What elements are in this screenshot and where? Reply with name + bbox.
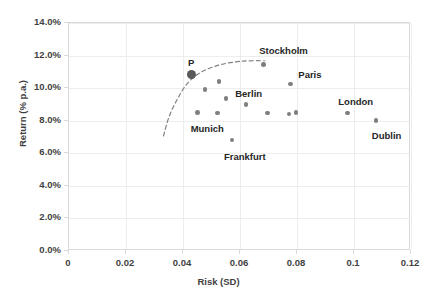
y-gridline <box>69 56 409 57</box>
x-tick-label: 0.02 <box>95 258 155 268</box>
y-tick-mark <box>64 185 68 186</box>
data-point[interactable] <box>195 110 200 115</box>
x-gridline <box>240 23 241 249</box>
data-point[interactable] <box>374 118 379 123</box>
data-point-label: Dublin <box>372 131 402 141</box>
y-tick-mark <box>64 120 68 121</box>
data-point[interactable] <box>288 82 293 87</box>
y-tick-mark <box>64 250 68 251</box>
y-gridline <box>69 23 409 24</box>
y-tick-label: 14.0% <box>0 17 61 27</box>
plot-area <box>68 22 410 250</box>
x-tick-mark <box>239 250 240 254</box>
x-tick-mark <box>182 250 183 254</box>
data-point[interactable] <box>244 102 249 107</box>
y-tick-label: 0.0% <box>0 245 61 255</box>
x-tick-mark <box>296 250 297 254</box>
x-tick-mark <box>353 250 354 254</box>
x-axis-title: Risk (SD) <box>0 276 437 287</box>
x-tick-label: 0.04 <box>152 258 212 268</box>
data-point[interactable] <box>261 62 266 67</box>
x-tick-mark <box>125 250 126 254</box>
x-tick-mark <box>410 250 411 254</box>
data-point-label: P <box>188 58 194 68</box>
data-point[interactable] <box>294 110 299 115</box>
x-gridline <box>354 23 355 249</box>
x-tick-label: 0.1 <box>323 258 383 268</box>
x-gridline <box>126 23 127 249</box>
y-tick-label: 6.0% <box>0 147 61 157</box>
y-tick-mark <box>64 217 68 218</box>
data-point[interactable] <box>203 87 208 92</box>
y-gridline <box>69 121 409 122</box>
data-point-label: Stockholm <box>259 46 308 56</box>
y-tick-mark <box>64 22 68 23</box>
y-gridline <box>69 218 409 219</box>
x-tick-label: 0.08 <box>266 258 326 268</box>
x-gridline <box>183 23 184 249</box>
y-tick-label: 12.0% <box>0 50 61 60</box>
y-gridline <box>69 186 409 187</box>
data-point-label: Berlin <box>235 89 262 99</box>
x-gridline <box>297 23 298 249</box>
y-tick-label: 8.0% <box>0 115 61 125</box>
y-tick-mark <box>64 152 68 153</box>
scatter-chart: Return (% p.a.) Risk (SD) 00.020.040.060… <box>0 0 437 296</box>
x-tick-label: 0.06 <box>209 258 269 268</box>
y-tick-mark <box>64 87 68 88</box>
data-point-label: Paris <box>298 70 321 80</box>
y-tick-mark <box>64 55 68 56</box>
y-tick-label: 2.0% <box>0 212 61 222</box>
x-gridline <box>411 23 412 249</box>
x-tick-mark <box>68 250 69 254</box>
data-point[interactable] <box>217 79 222 84</box>
x-tick-label: 0 <box>38 258 98 268</box>
y-tick-label: 10.0% <box>0 82 61 92</box>
x-tick-label: 0.12 <box>380 258 437 268</box>
data-point[interactable] <box>345 111 350 116</box>
y-tick-label: 4.0% <box>0 180 61 190</box>
